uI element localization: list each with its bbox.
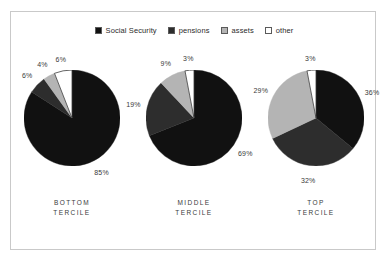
caption-line-1: TOP bbox=[255, 198, 377, 208]
caption-line-2: TERCILE bbox=[133, 208, 255, 218]
legend-swatch-social-security bbox=[95, 27, 102, 34]
pie-data-label: 19% bbox=[126, 101, 141, 108]
pie-data-label: 29% bbox=[253, 86, 268, 93]
pie-chart-row: 85%6%4%6%BOTTOMTERCILE69%19%9%3%MIDDLETE… bbox=[11, 50, 377, 210]
pie-data-label: 32% bbox=[301, 176, 316, 183]
pie-chart-top: 36%32%29%3%TOPTERCILE bbox=[255, 50, 377, 210]
legend-item-assets[interactable]: assets bbox=[221, 26, 254, 35]
pie-data-label: 6% bbox=[22, 72, 33, 79]
legend-swatch-pensions bbox=[168, 27, 175, 34]
legend-label: Social Security bbox=[106, 26, 157, 35]
legend-label: other bbox=[276, 26, 294, 35]
pie-data-label: 6% bbox=[56, 56, 67, 63]
figure-canvas: Social Securitypensionsassetsother 85%6%… bbox=[0, 0, 388, 263]
legend-label: pensions bbox=[179, 26, 210, 35]
caption-line-2: TERCILE bbox=[255, 208, 377, 218]
pie-data-label: 3% bbox=[305, 55, 316, 62]
pie-graphic: 69%19%9%3% bbox=[146, 70, 242, 166]
pie-graphic: 36%32%29%3% bbox=[268, 70, 364, 166]
legend-swatch-assets bbox=[221, 27, 228, 34]
legend-label: assets bbox=[232, 26, 254, 35]
pie-data-label: 3% bbox=[183, 55, 194, 62]
pie-category-caption: TOPTERCILE bbox=[255, 198, 377, 218]
caption-line-1: BOTTOM bbox=[11, 198, 133, 208]
caption-line-2: TERCILE bbox=[11, 208, 133, 218]
pie-category-caption: BOTTOMTERCILE bbox=[11, 198, 133, 218]
pie-data-label: 36% bbox=[365, 88, 380, 95]
pie-chart-bottom: 85%6%4%6%BOTTOMTERCILE bbox=[11, 50, 133, 210]
legend-item-social-security[interactable]: Social Security bbox=[95, 26, 157, 35]
legend-swatch-other bbox=[265, 27, 272, 34]
chart-frame: Social Securitypensionsassetsother 85%6%… bbox=[10, 11, 376, 250]
pie-chart-middle: 69%19%9%3%MIDDLETERCILE bbox=[133, 50, 255, 210]
caption-line-1: MIDDLE bbox=[133, 198, 255, 208]
pie-data-label: 4% bbox=[37, 60, 48, 67]
pie-graphic: 85%6%4%6% bbox=[24, 70, 120, 166]
pie-data-label: 85% bbox=[94, 169, 109, 176]
pie-data-label: 69% bbox=[238, 149, 253, 156]
legend-item-pensions[interactable]: pensions bbox=[168, 26, 210, 35]
legend-item-other[interactable]: other bbox=[265, 26, 294, 35]
chart-legend: Social Securitypensionsassetsother bbox=[11, 26, 377, 35]
pie-category-caption: MIDDLETERCILE bbox=[133, 198, 255, 218]
pie-data-label: 9% bbox=[161, 59, 172, 66]
